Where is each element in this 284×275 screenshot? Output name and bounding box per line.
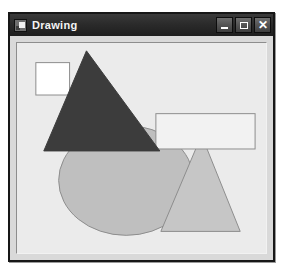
- close-icon: ✕: [258, 19, 268, 31]
- rectangle-shape[interactable]: [156, 114, 255, 149]
- square-shape[interactable]: [36, 63, 70, 95]
- maximize-icon: [240, 22, 248, 29]
- minimize-button[interactable]: [216, 17, 233, 33]
- minimize-icon: [221, 27, 228, 29]
- drawing-canvas[interactable]: [16, 42, 267, 254]
- client-area: [10, 36, 273, 260]
- title-bar[interactable]: Drawing ✕: [10, 14, 273, 36]
- drawing-app-icon: [14, 19, 27, 32]
- shapes-layer: [17, 43, 266, 253]
- maximize-button[interactable]: [235, 17, 252, 33]
- close-button[interactable]: ✕: [254, 17, 271, 33]
- drawing-window: Drawing ✕: [8, 12, 275, 262]
- window-title: Drawing: [32, 14, 214, 36]
